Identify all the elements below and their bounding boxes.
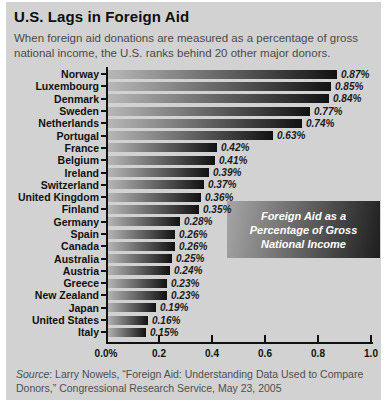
bar: [106, 131, 273, 140]
bar-row: Japan0.19%: [14, 302, 373, 314]
bar-row: Austria0.24%: [14, 265, 373, 277]
value-label: 0.63%: [277, 130, 305, 141]
country-label: Germany: [14, 216, 101, 228]
source-label: Source: [16, 368, 49, 380]
bar-row: Greece0.23%: [14, 277, 373, 289]
country-label: Switzerland: [14, 179, 101, 191]
bar-row: Finland0.35%: [14, 203, 373, 215]
value-label: 0.87%: [341, 69, 369, 80]
bar-row: New Zealand0.23%: [14, 289, 373, 301]
bar: [106, 70, 337, 79]
bar: [106, 168, 209, 177]
y-axis-line: [106, 67, 108, 344]
bar: [106, 279, 167, 288]
bar: [106, 303, 156, 312]
value-label: 0.36%: [205, 192, 233, 203]
bar: [106, 82, 331, 91]
chart-subtitle: When foreign aid donations are measured …: [14, 31, 372, 61]
x-tick-label: 0.2: [152, 348, 166, 359]
country-label: France: [14, 142, 101, 154]
country-label: Ireland: [14, 167, 101, 179]
bar: [106, 156, 215, 165]
value-label: 0.16%: [152, 315, 180, 326]
bar: [106, 328, 146, 337]
country-label: Denmark: [14, 93, 101, 105]
bar-row: Portugal0.63%: [14, 129, 373, 141]
bar: [106, 107, 310, 116]
country-label: Norway: [14, 68, 101, 80]
value-label: 0.24%: [174, 265, 202, 276]
bar-row: France0.42%: [14, 142, 373, 154]
x-tick-label: 0.4: [205, 348, 219, 359]
value-label: 0.74%: [306, 118, 334, 129]
country-label: Canada: [14, 240, 101, 252]
country-label: Spain: [14, 228, 101, 240]
bar: [106, 316, 148, 325]
x-tick-label: 1.0: [364, 348, 378, 359]
country-label: Netherlands: [14, 117, 101, 129]
bar: [106, 217, 180, 226]
country-label: Greece: [14, 277, 101, 289]
source-text: : Larry Nowels, “Foreign Aid: Understand…: [16, 368, 363, 394]
chart-title: U.S. Lags in Foreign Aid: [14, 8, 373, 26]
country-label: Australia: [14, 253, 101, 265]
bar: [106, 266, 170, 275]
value-label: 0.19%: [160, 302, 188, 313]
country-label: Sweden: [14, 105, 101, 117]
country-label: New Zealand: [14, 289, 101, 301]
bar-rows: Norway0.87%Luxembourg0.85%Denmark0.84%Sw…: [14, 68, 373, 339]
country-label: Belgium: [14, 154, 101, 166]
bar-row: Italy0.15%: [14, 326, 373, 338]
source-note: Source: Larry Nowels, “Foreign Aid: Unde…: [16, 368, 380, 395]
bar-row: Spain0.26%: [14, 228, 373, 240]
bar-row: Luxembourg0.85%: [14, 80, 373, 92]
country-label: United Kingdom: [14, 191, 101, 203]
value-label: 0.37%: [208, 179, 236, 190]
bar: [106, 94, 329, 103]
value-label: 0.41%: [219, 155, 247, 166]
value-label: 0.39%: [213, 167, 241, 178]
value-label: 0.23%: [171, 290, 199, 301]
bar: [106, 193, 201, 202]
value-label: 0.84%: [333, 93, 361, 104]
value-label: 0.15%: [150, 327, 178, 338]
country-label: Austria: [14, 265, 101, 277]
bar-row: Belgium0.41%: [14, 154, 373, 166]
bar: [106, 230, 175, 239]
country-label: Japan: [14, 302, 101, 314]
country-label: Finland: [14, 203, 101, 215]
value-label: 0.85%: [335, 81, 363, 92]
value-label: 0.23%: [171, 278, 199, 289]
bar-row: United Kingdom0.36%: [14, 191, 373, 203]
country-label: Portugal: [14, 130, 101, 142]
value-label: 0.77%: [314, 106, 342, 117]
bar-row: Australia0.25%: [14, 252, 373, 264]
bar: [106, 180, 204, 189]
bar-row: Switzerland0.37%: [14, 179, 373, 191]
value-label: 0.35%: [203, 204, 231, 215]
infographic-panel: U.S. Lags in Foreign Aid When foreign ai…: [6, 2, 381, 400]
country-label: Luxembourg: [14, 80, 101, 92]
bar: [106, 242, 175, 251]
bar-row: Ireland0.39%: [14, 166, 373, 178]
country-label: Italy: [14, 326, 101, 338]
x-tick-label: 0.8: [311, 348, 325, 359]
value-label: 0.28%: [184, 216, 212, 227]
value-label: 0.25%: [176, 253, 204, 264]
value-label: 0.26%: [179, 229, 207, 240]
bar-row: United States0.16%: [14, 314, 373, 326]
value-label: 0.42%: [221, 142, 249, 153]
bar: [106, 205, 199, 214]
bar: [106, 254, 172, 263]
bar-chart: Norway0.87%Luxembourg0.85%Denmark0.84%Sw…: [14, 68, 373, 364]
bar-row: Norway0.87%: [14, 68, 373, 80]
country-label: United States: [14, 314, 101, 326]
value-label: 0.26%: [179, 241, 207, 252]
bar-row: Netherlands0.74%: [14, 117, 373, 129]
bar: [106, 143, 217, 152]
x-axis-line: [106, 342, 373, 344]
bar-row: Canada0.26%: [14, 240, 373, 252]
bar-row: Germany0.28%: [14, 216, 373, 228]
bar: [106, 119, 302, 128]
bar-row: Denmark0.84%: [14, 93, 373, 105]
